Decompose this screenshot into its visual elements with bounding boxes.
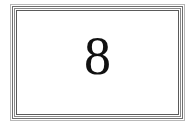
- card-frame: 8: [10, 4, 185, 121]
- card-number: 8: [11, 29, 184, 83]
